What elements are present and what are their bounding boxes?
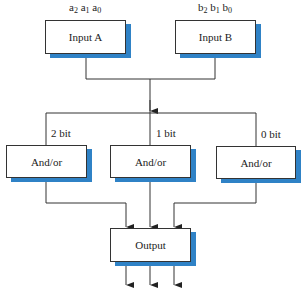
gate-0-label: And/or (240, 157, 271, 169)
input-a-bits-label: a2 a1 a0 (69, 1, 101, 15)
gate-1-label: And/or (135, 156, 166, 168)
gate-2-label: And/or (31, 156, 62, 168)
gate-2-box: And/or (6, 145, 87, 178)
output-label: Output (135, 239, 166, 251)
gate-1-box: And/or (110, 145, 191, 178)
gate-0-bit-label: 0 bit (261, 128, 281, 140)
wire-input-b (150, 54, 215, 79)
wire-gate-2-to-output (46, 178, 126, 227)
gate-2-bit-label: 2 bit (51, 127, 71, 139)
gate-1-bit-label: 1 bit (156, 127, 176, 139)
input-b-label: Input B (199, 31, 232, 43)
input-a-box: Input A (45, 20, 126, 54)
output-box: Output (110, 228, 191, 262)
gate-0-box: And/or (216, 146, 296, 179)
input-b-box: Input B (175, 20, 256, 54)
input-a-label: Input A (69, 31, 102, 43)
wire-input-a (86, 54, 150, 79)
wire-gate-0-to-output (174, 178, 256, 227)
input-b-bits-label: b2 b1 b0 (198, 1, 232, 15)
